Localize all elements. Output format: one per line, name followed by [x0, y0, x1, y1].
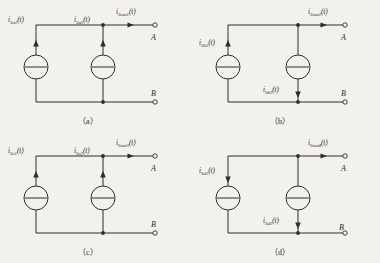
source-left-label-b: iSb1(t) [199, 39, 216, 48]
source-left-label-a: iSa1(t) [8, 16, 25, 25]
source-left-label-d: iSd1(t) [199, 167, 216, 176]
terminal-b-label-a: B [151, 89, 156, 98]
terminal-a-label-b: A [340, 33, 346, 42]
terminal-a-label-c: A [150, 164, 156, 173]
output-current-label-b: iSout2(t) [308, 8, 328, 17]
terminal-a-label-d: A [340, 164, 346, 173]
source-right-label-c: iSc2(t) [74, 147, 90, 156]
circuit-panel-a: iSa1(t) iSa2(t) iSout1(t) A B （a） [0, 0, 190, 131]
circuit-panel-c: iSc1(t) iSc2(t) iSout3(t) A B （c） [0, 131, 190, 262]
circuit-panel-b: iSb1(t) iSb2(t) iSout2(t) A B （b） [190, 0, 380, 131]
terminal-b-label-b: B [341, 89, 346, 98]
source-left-label-c: iSc1(t) [8, 147, 24, 156]
output-current-label-c: iSout3(t) [116, 139, 136, 148]
terminal-b-label-d: B [339, 223, 344, 232]
output-current-label-a: iSout1(t) [116, 8, 136, 17]
terminal-b-label-c: B [151, 220, 156, 229]
figure-sheet: iSa1(t) iSa2(t) iSout1(t) A B （a） [0, 0, 380, 263]
panel-caption-a: （a） [78, 117, 98, 126]
circuit-panel-d: iSd1(t) iSd2(t) iSout4(t) A B （d） [190, 131, 380, 262]
source-right-label-b: iSb2(t) [263, 86, 280, 95]
panel-caption-c: （c） [78, 248, 98, 257]
source-right-label-a: iSa2(t) [74, 16, 91, 25]
output-current-label-d: iSout4(t) [308, 139, 328, 148]
terminal-a-label-a: A [150, 33, 156, 42]
panel-caption-b: （b） [270, 117, 290, 126]
source-right-label-d: iSd2(t) [263, 217, 280, 226]
panel-caption-d: （d） [270, 248, 290, 257]
